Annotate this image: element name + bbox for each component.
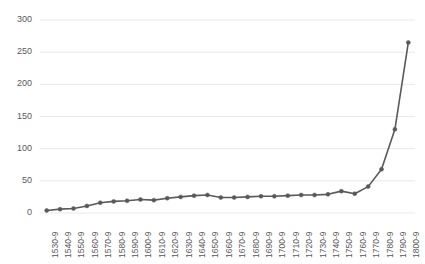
data-point (125, 199, 129, 203)
x-axis-tick-label: 1750-9 (345, 232, 354, 258)
x-axis-tick-label: 1770-9 (372, 232, 381, 258)
x-axis-tick-label: 1800-9 (412, 232, 421, 258)
data-line-series-1 (47, 43, 409, 211)
x-axis-tick-label: 1760-9 (359, 232, 368, 258)
y-axis-tick-label: 0 (0, 208, 32, 217)
y-axis-tick-label: 50 (0, 176, 32, 185)
x-axis-tick-label: 1580-9 (118, 232, 127, 258)
data-point (353, 192, 357, 196)
gridlines (40, 20, 415, 213)
data-point (326, 192, 330, 196)
data-point (406, 41, 410, 45)
data-point (98, 201, 102, 205)
x-axis-tick-label: 1540-9 (64, 232, 73, 258)
data-point (112, 199, 116, 203)
data-point (45, 208, 49, 212)
data-point (205, 193, 209, 197)
data-point (339, 189, 343, 193)
data-point (299, 193, 303, 197)
data-point (232, 196, 236, 200)
data-point (71, 207, 75, 211)
data-point (85, 204, 89, 208)
data-point (272, 194, 276, 198)
x-axis-tick-label: 1590-9 (131, 232, 140, 258)
data-point (165, 196, 169, 200)
data-point (380, 167, 384, 171)
data-point (192, 194, 196, 198)
x-axis-tick-label: 1620-9 (171, 232, 180, 258)
y-axis-tick-label: 250 (0, 47, 32, 56)
data-point-markers (45, 41, 411, 213)
x-axis-tick-label: 1790-9 (399, 232, 408, 258)
x-axis-tick-label: 1650-9 (211, 232, 220, 258)
x-axis-tick-label: 1690-9 (265, 232, 274, 258)
data-point (286, 194, 290, 198)
data-point (219, 196, 223, 200)
data-point (246, 195, 250, 199)
x-axis-tick-label: 1740-9 (332, 232, 341, 258)
x-axis-tick-label: 1560-9 (91, 232, 100, 258)
x-axis-tick-label: 1640-9 (198, 232, 207, 258)
x-axis-tick-label: 1780-9 (386, 232, 395, 258)
x-axis-tick-label: 1570-9 (104, 232, 113, 258)
x-axis-tick-label: 1630-9 (185, 232, 194, 258)
data-point (152, 198, 156, 202)
data-point (259, 194, 263, 198)
data-point (393, 127, 397, 131)
x-axis-tick-label: 1530-9 (51, 232, 60, 258)
data-point (58, 207, 62, 211)
x-axis-tick-label: 1700-9 (278, 232, 287, 258)
x-axis-tick-label: 1670-9 (238, 232, 247, 258)
x-axis-tick-label: 1550-9 (77, 232, 86, 258)
y-axis-tick-label: 300 (0, 15, 32, 24)
y-axis-tick-label: 200 (0, 79, 32, 88)
x-axis-tick-label: 1600-9 (144, 232, 153, 258)
data-point (366, 185, 370, 189)
x-axis-tick-label: 1730-9 (319, 232, 328, 258)
line-chart-plot (0, 0, 425, 264)
chart-container: 0501001502002503001530-91540-91550-91560… (0, 0, 425, 264)
x-axis-tick-label: 1720-9 (305, 232, 314, 258)
x-axis-tick-label: 1660-9 (225, 232, 234, 258)
data-point (313, 193, 317, 197)
x-axis-tick-label: 1610-9 (158, 232, 167, 258)
x-axis-tick-label: 1710-9 (292, 232, 301, 258)
data-point (179, 195, 183, 199)
x-axis-tick-label: 1680-9 (252, 232, 261, 258)
y-axis-tick-label: 100 (0, 144, 32, 153)
y-axis-tick-label: 150 (0, 112, 32, 121)
data-point (138, 197, 142, 201)
